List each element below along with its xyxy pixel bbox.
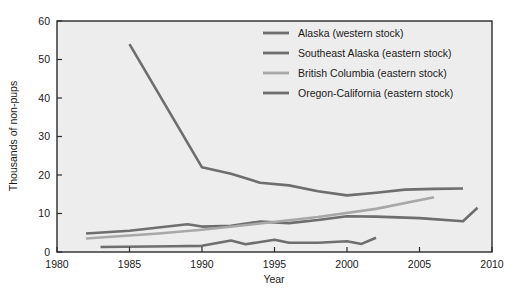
line-chart: 0102030405060 19801985199019952000200520…	[0, 0, 519, 289]
y-tick-label: 0	[44, 246, 50, 258]
x-tick-label: 2010	[480, 258, 504, 270]
x-tick-label: 1980	[45, 258, 69, 270]
y-axis-title: Thousands of non-pups	[7, 81, 19, 191]
x-tick-label: 1985	[118, 258, 142, 270]
x-tick-label: 1990	[190, 258, 214, 270]
y-tick-label: 60	[38, 15, 50, 27]
y-tick-label: 30	[38, 130, 50, 142]
y-tick-label: 20	[38, 169, 50, 181]
y-tick-label: 40	[38, 92, 50, 104]
x-axis-title: Year	[263, 273, 285, 285]
legend-label: Oregon-California (eastern stock)	[298, 87, 453, 99]
x-tick-label: 1995	[263, 258, 287, 270]
y-tick-label: 10	[38, 207, 50, 219]
legend-label: British Columbia (eastern stock)	[298, 67, 447, 79]
legend-label: Southeast Alaska (eastern stock)	[298, 47, 452, 59]
x-tick-label: 2005	[408, 258, 432, 270]
x-tick-label: 2000	[335, 258, 359, 270]
y-tick-label: 50	[38, 53, 50, 65]
chart-figure: 0102030405060 19801985199019952000200520…	[0, 0, 519, 289]
legend-label: Alaska (western stock)	[298, 27, 404, 39]
